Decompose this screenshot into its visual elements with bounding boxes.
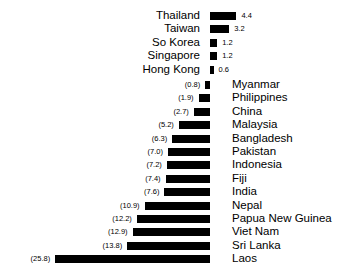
bar [133, 228, 210, 236]
chart-row: Fiji(7.4) [0, 173, 360, 186]
bar [194, 108, 210, 116]
bar [166, 175, 210, 183]
chart-row: India(7.6) [0, 186, 360, 199]
category-label: China [232, 105, 262, 118]
value-label: (0.8) [185, 79, 200, 91]
chart-row: Taiwan3.2 [0, 23, 360, 36]
chart-row: Nepal(10.9) [0, 200, 360, 213]
value-label: 0.6 [219, 64, 229, 76]
chart-row: So Korea1.2 [0, 37, 360, 50]
chart-row: Laos(25.8) [0, 253, 360, 266]
value-label: (7.0) [148, 146, 163, 158]
value-label: 4.4 [241, 10, 251, 22]
value-label: (12.2) [112, 213, 132, 225]
chart-row: Pakistan(7.0) [0, 146, 360, 159]
value-label: (5.2) [158, 119, 173, 131]
value-label: (1.9) [178, 92, 193, 104]
bar [210, 39, 217, 47]
bar [205, 81, 210, 89]
bar [179, 121, 210, 129]
value-label: 1.2 [222, 50, 232, 62]
chart-row: Singapore1.2 [0, 50, 360, 63]
value-label: (6.3) [152, 133, 167, 145]
value-label: (25.8) [31, 253, 51, 265]
chart-row: Bangladesh(6.3) [0, 133, 360, 146]
bar [210, 66, 214, 74]
category-label: Indonesia [232, 158, 282, 171]
category-label: Singapore [148, 49, 200, 62]
chart-row: Hong Kong0.6 [0, 64, 360, 77]
bar [210, 25, 229, 33]
category-label: Philippines [232, 91, 288, 104]
value-label: (7.4) [145, 173, 160, 185]
value-label: (7.2) [146, 159, 161, 171]
chart-row: Malaysia(5.2) [0, 119, 360, 132]
category-label: Pakistan [232, 145, 276, 158]
value-label: 1.2 [222, 37, 232, 49]
bar [199, 94, 210, 102]
category-label: Nepal [232, 199, 262, 212]
bar [164, 188, 210, 196]
category-label: Taiwan [164, 22, 200, 35]
value-label: (2.7) [173, 106, 188, 118]
bar [167, 161, 210, 169]
value-label: (10.9) [120, 200, 140, 212]
chart-row: Philippines(1.9) [0, 92, 360, 105]
category-label: Myanmar [232, 78, 280, 91]
chart-row: Thailand4.4 [0, 10, 360, 23]
chart-row: Myanmar(0.8) [0, 79, 360, 92]
chart-row: China(2.7) [0, 106, 360, 119]
bar [210, 12, 236, 20]
category-label: Sri Lanka [232, 239, 281, 252]
bar [137, 215, 210, 223]
category-label: Bangladesh [232, 132, 293, 145]
category-label: Fiji [232, 172, 247, 185]
bar [127, 242, 210, 250]
chart-row: Indonesia(7.2) [0, 159, 360, 172]
category-label: India [232, 185, 257, 198]
category-label: Papua New Guinea [232, 212, 332, 225]
bar [55, 255, 210, 263]
category-label: Thailand [156, 9, 200, 22]
chart-row: Papua New Guinea(12.2) [0, 213, 360, 226]
category-label: So Korea [152, 36, 200, 49]
category-label: Viet Nam [232, 225, 279, 238]
value-label: (13.8) [103, 240, 123, 252]
bar [172, 135, 210, 143]
value-label: (7.6) [144, 186, 159, 198]
bar [168, 148, 210, 156]
chart-row: Viet Nam(12.9) [0, 226, 360, 239]
category-label: Hong Kong [142, 63, 200, 76]
chart-row: Sri Lanka(13.8) [0, 240, 360, 253]
bar [145, 202, 210, 210]
category-label: Laos [232, 252, 257, 265]
value-label: (12.9) [108, 226, 128, 238]
category-label: Malaysia [232, 118, 277, 131]
bar [210, 52, 217, 60]
value-label: 3.2 [234, 23, 244, 35]
